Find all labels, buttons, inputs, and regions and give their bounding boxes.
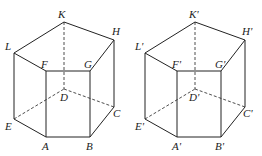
- hidden-edge-ED: [14, 89, 64, 119]
- prism-right: K' H' G' F' L' D' C' B' A' E': [134, 8, 253, 152]
- label-D: D: [59, 91, 68, 103]
- label-F-prime: F': [171, 58, 182, 70]
- label-D-prime: D': [188, 91, 200, 103]
- label-L: L: [4, 40, 11, 52]
- label-K: K: [57, 8, 66, 20]
- label-C-prime: C': [243, 107, 253, 119]
- label-B-prime: B': [215, 140, 225, 152]
- hidden-edge-ED: [145, 89, 195, 119]
- label-E-prime: E': [134, 120, 145, 132]
- label-L-prime: L': [134, 40, 144, 52]
- hidden-edge-DC: [64, 89, 114, 107]
- bottom-visible-edges: [145, 107, 245, 137]
- label-F: F: [40, 58, 48, 70]
- label-E: E: [4, 120, 12, 132]
- bottom-visible-edges: [14, 107, 114, 137]
- label-B: B: [86, 140, 93, 152]
- label-H-prime: H': [241, 25, 253, 37]
- label-A-prime: A': [171, 140, 182, 152]
- label-C: C: [113, 107, 121, 119]
- label-G-prime: G': [215, 58, 226, 70]
- prism-left: K H G F L D C B A E: [4, 8, 121, 152]
- label-A: A: [41, 140, 49, 152]
- diagram-canvas: K H G F L D C B A E K' H' G' F' L' D' C'…: [0, 0, 262, 156]
- hidden-edge-DC: [195, 89, 245, 107]
- label-H: H: [111, 25, 121, 37]
- label-G: G: [84, 58, 92, 70]
- label-K-prime: K': [188, 8, 199, 20]
